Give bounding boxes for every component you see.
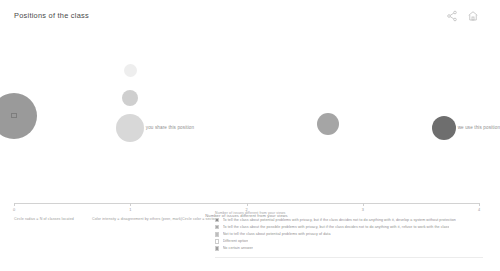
page-header: Positions of the class bbox=[0, 0, 493, 33]
bubble-point[interactable] bbox=[122, 90, 138, 106]
legend-swatch bbox=[215, 232, 219, 237]
legend-swatch bbox=[215, 225, 219, 230]
chart-annotations: Circle radius = N of classes located Col… bbox=[14, 217, 214, 229]
annotation-intensity: Color intensity = disagreement by others… bbox=[92, 217, 182, 221]
share-icon[interactable] bbox=[446, 10, 458, 22]
bubble-centroid-marker bbox=[11, 113, 16, 118]
legend-swatch bbox=[215, 246, 219, 251]
bubble-point[interactable] bbox=[432, 116, 456, 140]
bubble-point[interactable] bbox=[317, 113, 339, 135]
legend-item-label: No certain answer bbox=[223, 246, 253, 251]
chart-legend: Number of issues different from your vie… bbox=[215, 211, 483, 253]
axis-tick bbox=[479, 203, 480, 206]
page-title: Positions of the class bbox=[14, 11, 89, 20]
legend-swatch bbox=[215, 218, 219, 223]
legend-item[interactable]: To tell the class about the possible pro… bbox=[215, 225, 483, 230]
chart-plot-area: you share this positionwe use this posit… bbox=[0, 33, 493, 205]
legend-divider bbox=[215, 257, 483, 258]
home-icon[interactable] bbox=[467, 10, 479, 22]
annotation-radius: Circle radius = N of classes located bbox=[14, 217, 74, 221]
legend-item-label: Different option bbox=[223, 239, 249, 244]
axis-tick bbox=[247, 203, 248, 206]
axis-tick bbox=[130, 203, 131, 206]
bubble-label: we use this position bbox=[458, 125, 500, 130]
legend-item[interactable]: No certain answer bbox=[215, 246, 483, 251]
legend-item-label: Not to tell the class about potential pr… bbox=[223, 232, 331, 237]
header-icon-group bbox=[446, 10, 479, 22]
annotation-color: Circle color = sector bbox=[182, 217, 216, 221]
bubble-point[interactable] bbox=[0, 93, 37, 139]
legend-item[interactable]: Not to tell the class about potential pr… bbox=[215, 232, 483, 237]
legend-caption: Number of issues different from your vie… bbox=[215, 211, 483, 215]
legend-item-label: To tell the class about the possible pro… bbox=[223, 225, 450, 230]
axis-tick-label: 1 bbox=[129, 207, 131, 212]
axis-tick bbox=[14, 203, 15, 206]
legend-item-label: To tell the class about potential proble… bbox=[223, 218, 456, 223]
bubble-point[interactable] bbox=[124, 64, 137, 77]
axis-tick bbox=[363, 203, 364, 206]
legend-swatch bbox=[215, 239, 219, 244]
axis-tick-label: 0 bbox=[13, 207, 15, 212]
bubble-point[interactable] bbox=[116, 114, 144, 142]
legend-item[interactable]: Different option bbox=[215, 239, 483, 244]
legend-item[interactable]: To tell the class about potential proble… bbox=[215, 218, 483, 223]
bubble-label: you share this position bbox=[146, 125, 194, 130]
